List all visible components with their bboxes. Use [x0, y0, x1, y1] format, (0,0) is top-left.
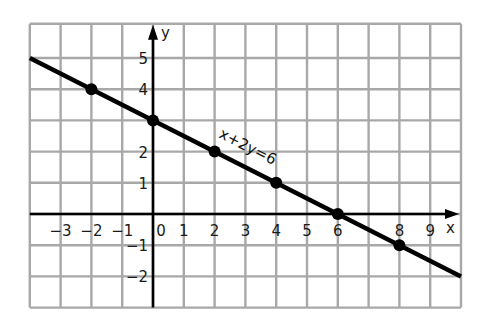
data-point: [85, 83, 97, 95]
y-tick-label: −1: [126, 237, 148, 255]
y-axis-arrow-icon: [148, 25, 158, 40]
x-tick-label: −3: [50, 222, 72, 240]
y-tick-label: 1: [138, 175, 148, 193]
x-tick-label: 2: [210, 222, 220, 240]
y-axis-label: y: [161, 24, 170, 42]
y-tick-label: 5: [138, 50, 148, 68]
x-tick-label: 6: [333, 222, 343, 240]
tick-labels: −3−2−1012345689−2−11245: [50, 50, 435, 286]
x-tick-label: 5: [302, 222, 312, 240]
data-point: [147, 114, 159, 126]
x-axis-arrow-icon: [445, 209, 459, 219]
y-tick-label: −2: [126, 268, 148, 286]
y-tick-label: 4: [138, 81, 148, 99]
data-point: [209, 146, 221, 158]
data-point: [270, 177, 282, 189]
data-point: [393, 239, 405, 251]
x-tick-label: 8: [395, 222, 405, 240]
x-tick-label: −2: [80, 222, 102, 240]
data-point: [332, 208, 344, 220]
x-tick-label: 4: [271, 222, 281, 240]
equation-label: x+2y=6: [216, 125, 279, 169]
x-tick-label: 9: [425, 222, 435, 240]
x-tick-label: 1: [179, 222, 189, 240]
x-tick-label: 3: [241, 222, 251, 240]
graph-plot: −3−2−1012345689−2−11245 x+2y=6 x y: [0, 0, 482, 325]
y-tick-label: 2: [138, 144, 148, 162]
x-tick-label: 0: [156, 222, 166, 240]
x-axis-label: x: [446, 219, 455, 237]
